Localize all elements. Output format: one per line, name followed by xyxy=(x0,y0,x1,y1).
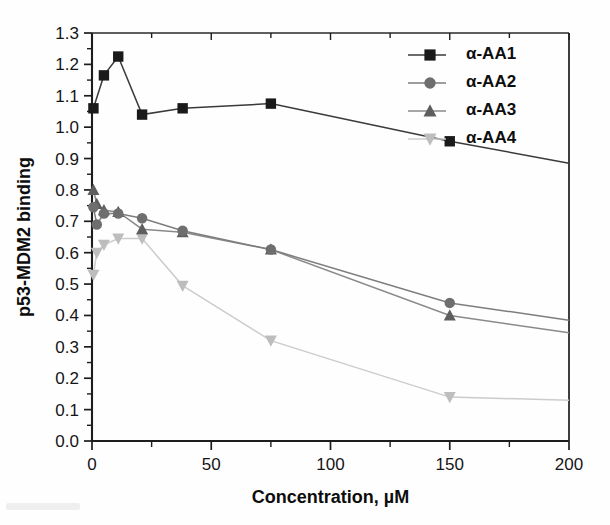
legend-entry[interactable]: α-AA4 xyxy=(408,128,517,147)
series-AA4 xyxy=(87,234,569,404)
y-tick-label: 1.0 xyxy=(55,118,79,137)
y-tick-label: 0.3 xyxy=(55,338,79,357)
marker-triangle-down xyxy=(177,281,189,292)
line-chart: 0.00.10.20.30.40.50.60.70.80.91.01.11.21… xyxy=(0,0,610,525)
marker-circle xyxy=(88,202,99,213)
y-tick-label: 0.9 xyxy=(55,150,79,169)
marker-square xyxy=(88,103,98,113)
marker-circle xyxy=(445,298,456,309)
figure-container: 0.00.10.20.30.40.50.60.70.80.91.01.11.21… xyxy=(0,0,610,525)
y-axis-title: p53-MDM2 binding xyxy=(14,157,34,317)
marker-circle xyxy=(266,244,277,255)
y-tick-label: 0.5 xyxy=(55,275,79,294)
series-line xyxy=(93,239,569,401)
marker-square xyxy=(99,70,109,80)
marker-square xyxy=(137,109,147,119)
y-tick-label: 1.2 xyxy=(55,55,79,74)
y-tick-label: 0.1 xyxy=(55,401,79,420)
marker-triangle-down xyxy=(87,270,99,281)
legend-label: α-AA3 xyxy=(466,100,516,119)
marker-circle xyxy=(92,219,103,230)
marker-square xyxy=(177,103,187,113)
series-line xyxy=(93,207,569,320)
y-tick-label: 0.4 xyxy=(55,306,79,325)
y-tick-label: 0.7 xyxy=(55,212,79,231)
marker-triangle-up xyxy=(136,223,148,234)
x-axis-title: Concentration, µM xyxy=(252,487,409,507)
x-tick-label: 100 xyxy=(316,455,344,474)
marker-square xyxy=(445,136,455,146)
axis-frame xyxy=(92,33,569,441)
marker-square xyxy=(113,51,123,61)
marker-triangle-up xyxy=(444,309,456,320)
x-tick-label: 0 xyxy=(87,455,96,474)
legend-label: α-AA4 xyxy=(466,128,517,147)
y-tick-label: 1.3 xyxy=(55,24,79,43)
legend-label: α-AA2 xyxy=(466,72,516,91)
marker-circle xyxy=(113,208,124,219)
legend-label: α-AA1 xyxy=(466,44,516,63)
marker-circle xyxy=(137,213,148,224)
marker-circle xyxy=(177,225,188,236)
marker-circle xyxy=(424,77,435,88)
series-line xyxy=(93,190,569,333)
legend-entry[interactable]: α-AA2 xyxy=(408,72,516,91)
legend-entry[interactable]: α-AA3 xyxy=(408,100,516,119)
marker-square xyxy=(266,98,276,108)
x-tick-label: 50 xyxy=(202,455,221,474)
y-tick-label: 0.2 xyxy=(55,369,79,388)
legend-entry[interactable]: α-AA1 xyxy=(408,44,516,63)
x-tick-label: 150 xyxy=(436,455,464,474)
y-tick-label: 0.8 xyxy=(55,181,79,200)
y-tick-label: 0.0 xyxy=(55,432,79,451)
marker-circle xyxy=(99,208,110,219)
x-tick-label: 200 xyxy=(555,455,583,474)
series-AA2 xyxy=(88,202,569,320)
y-tick-label: 0.6 xyxy=(55,244,79,263)
y-tick-label: 1.1 xyxy=(55,87,79,106)
marker-square xyxy=(424,49,435,60)
